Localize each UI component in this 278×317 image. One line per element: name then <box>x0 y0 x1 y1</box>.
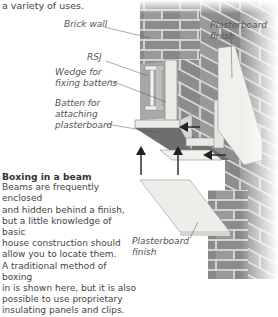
caption-line: and hidden behind a finish, <box>2 205 137 216</box>
caption-line: Beams are frequently enclosed <box>2 182 137 204</box>
caption-line: house construction should <box>2 238 137 249</box>
label-plasterboard-top-line2: finish <box>210 31 234 42</box>
caption-line: allow you to locate them. <box>2 249 137 260</box>
label-plasterboard-top-line1: Plasterboard <box>210 20 267 31</box>
intro-text: a variety of uses. <box>2 0 84 11</box>
caption-line: in is shown here, but it is also <box>2 283 137 294</box>
label-brick-wall: Brick wall <box>64 19 107 30</box>
label-wedge-line2: fixing battens <box>55 78 117 89</box>
label-batten-line3: plasterboard <box>55 120 112 131</box>
label-rsj: RSJ <box>87 52 102 63</box>
caption: Boxing in a beam Beams are frequently en… <box>2 171 137 317</box>
label-batten-line2: attaching <box>55 109 98 120</box>
caption-line: insulating panels and clips. <box>2 305 137 316</box>
caption-line: possible to use proprietary <box>2 294 137 305</box>
label-batten-line1: Batten for <box>55 98 100 109</box>
caption-line: A traditional method of boxing <box>2 261 137 283</box>
label-wedge-line1: Wedge for <box>55 67 102 78</box>
caption-title: Boxing in a beam <box>2 171 137 182</box>
caption-line: but a little knowledge of basic <box>2 216 137 238</box>
label-plasterboard-bottom-line1: Plasterboard <box>132 236 189 247</box>
